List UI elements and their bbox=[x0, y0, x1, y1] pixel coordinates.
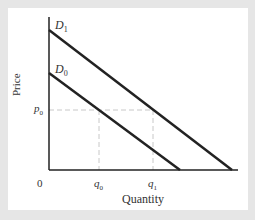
origin-label: 0 bbox=[37, 177, 43, 189]
p0-tick-label: p0 bbox=[34, 102, 43, 117]
q0-tick-label: q0 bbox=[94, 177, 103, 192]
y-axis-label: Price bbox=[10, 73, 22, 96]
q1-tick-label: q1 bbox=[148, 177, 157, 192]
x-axis-label: Quantity bbox=[122, 192, 164, 207]
demand-curve-d1 bbox=[49, 30, 232, 170]
demand-curve-d0 bbox=[49, 73, 180, 170]
d1-label: D1 bbox=[55, 18, 68, 34]
d0-label: D0 bbox=[55, 62, 68, 78]
